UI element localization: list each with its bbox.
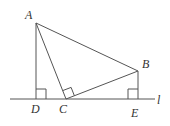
right-angle-mark-E bbox=[128, 89, 138, 99]
label-C: C bbox=[59, 102, 68, 116]
right-angle-mark-D bbox=[36, 89, 46, 99]
segment-AC bbox=[36, 23, 66, 99]
label-E: E bbox=[130, 106, 139, 120]
label-D: D bbox=[30, 102, 40, 116]
segment-AB bbox=[36, 23, 138, 71]
label-A: A bbox=[24, 8, 33, 22]
geometry-diagram: A B C D E l bbox=[0, 0, 170, 126]
label-l: l bbox=[157, 93, 161, 107]
label-B: B bbox=[142, 57, 150, 71]
segment-BC bbox=[66, 71, 138, 99]
